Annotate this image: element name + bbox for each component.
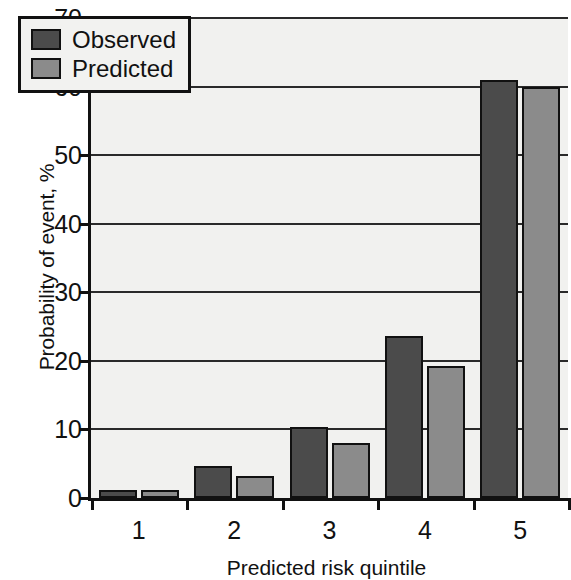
legend-label-predicted: Predicted bbox=[72, 57, 173, 81]
bar-predicted-q3 bbox=[332, 443, 370, 498]
x-axis-tick-label: 1 bbox=[132, 518, 146, 543]
bar-predicted-q1 bbox=[141, 490, 179, 498]
x-axis-tick bbox=[186, 498, 189, 510]
bar-predicted-q4 bbox=[427, 366, 465, 498]
y-axis-tick-label: 40 bbox=[54, 211, 82, 236]
bar-observed-q5 bbox=[480, 80, 518, 498]
x-axis-tick-label: 3 bbox=[323, 518, 337, 543]
bar-observed-q4 bbox=[385, 336, 423, 498]
bar-predicted-q5 bbox=[522, 87, 560, 498]
x-axis-tick bbox=[473, 498, 476, 510]
x-axis-tick bbox=[282, 498, 285, 510]
x-axis-tick-label: 5 bbox=[513, 518, 527, 543]
y-axis-tick-label: 0 bbox=[68, 486, 82, 511]
y-axis-tick-label: 20 bbox=[54, 348, 82, 373]
bar-observed-q2 bbox=[194, 466, 232, 498]
y-axis-tick-label: 30 bbox=[54, 280, 82, 305]
bar-observed-q3 bbox=[290, 427, 328, 498]
legend-entry-predicted: Predicted bbox=[31, 54, 176, 83]
legend-swatch-observed-icon bbox=[31, 29, 61, 50]
bar-observed-q1 bbox=[99, 490, 137, 498]
x-axis-tick-label: 4 bbox=[418, 518, 432, 543]
x-axis-tick bbox=[377, 498, 380, 510]
x-axis-tick-label: 2 bbox=[227, 518, 241, 543]
legend-entry-observed: Observed bbox=[31, 25, 176, 54]
legend-swatch-predicted-icon bbox=[31, 58, 61, 79]
legend-label-observed: Observed bbox=[72, 28, 176, 52]
chart-legend: Observed Predicted bbox=[18, 16, 191, 93]
y-axis-tick-label: 10 bbox=[54, 417, 82, 442]
x-axis-title: Predicted risk quintile bbox=[88, 556, 565, 580]
x-axis-tick bbox=[91, 498, 94, 510]
bar-predicted-q2 bbox=[236, 476, 274, 498]
y-axis-tick-label: 50 bbox=[54, 143, 82, 168]
